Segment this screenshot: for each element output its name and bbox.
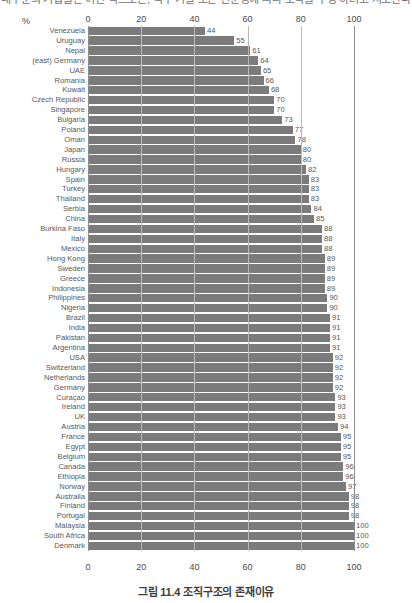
bar-row: Greece89 — [0, 274, 412, 284]
top-tick-label-60: 60 — [243, 14, 253, 24]
bar — [88, 383, 333, 391]
bottom-tick-label-80: 80 — [296, 562, 306, 572]
bar-row: Hong Kong89 — [0, 254, 412, 264]
figure-caption: 그림 11.4 조직구조의 존재이유 — [0, 583, 412, 599]
bar-value-label: 93 — [337, 393, 345, 403]
bar-row: Romania66 — [0, 76, 412, 86]
bar-row: Belgium95 — [0, 452, 412, 462]
bar-row: Argentina91 — [0, 343, 412, 353]
category-label: Curaçao — [0, 393, 85, 403]
bar-value-label: 89 — [327, 264, 335, 274]
bar — [88, 482, 346, 490]
bar-value-label: 96 — [345, 462, 353, 472]
bar-row: Burkina Faso88 — [0, 224, 412, 234]
bar — [88, 96, 274, 104]
bar-value-label: 95 — [343, 442, 351, 452]
cut-off-header-label: 대부분의 기업들은 어떤 식으로든, 직무 기술 또는 전문성에 따라 조직을 … — [0, 0, 412, 5]
bar — [88, 215, 314, 223]
bar-row: Pakistan91 — [0, 333, 412, 343]
category-label: Spain — [0, 175, 85, 185]
category-label: Thailand — [0, 194, 85, 204]
category-label: Hong Kong — [0, 254, 85, 264]
top-tick-label-80: 80 — [296, 14, 306, 24]
category-label: Portugal — [0, 511, 85, 521]
bar-rows: Venezuela44Uruguay55Nepal61(east) German… — [88, 26, 354, 551]
bar-value-label: 83 — [311, 194, 319, 204]
bar — [88, 126, 293, 134]
bar — [88, 314, 330, 322]
bar-value-label: 83 — [311, 184, 319, 194]
bar-row: Japan80 — [0, 145, 412, 155]
bar-row: Spain83 — [0, 175, 412, 185]
category-label: Australia — [0, 492, 85, 502]
bar-row: Singapore70 — [0, 105, 412, 115]
bottom-axis: 020406080100 — [0, 559, 412, 573]
bar — [88, 284, 325, 292]
bar-row: Russia80 — [0, 155, 412, 165]
bar-row: Philippines90 — [0, 293, 412, 303]
category-label: Mexico — [0, 244, 85, 254]
bar — [88, 324, 330, 332]
category-label: South Africa — [0, 531, 85, 541]
category-label: Poland — [0, 125, 85, 135]
bar-row: Kuwait68 — [0, 85, 412, 95]
bar-value-label: 89 — [327, 254, 335, 264]
bar — [88, 413, 335, 421]
bar-value-label: 68 — [271, 85, 279, 95]
bar — [88, 522, 354, 530]
bar-value-label: 66 — [266, 76, 274, 86]
gridline-0 — [88, 26, 89, 551]
category-label: Nigeria — [0, 303, 85, 313]
bar-value-label: 91 — [332, 343, 340, 353]
bar-value-label: 83 — [311, 175, 319, 185]
bar — [88, 116, 282, 124]
bar-row: Canada96 — [0, 462, 412, 472]
top-tick-label-40: 40 — [189, 14, 199, 24]
bar-row: South Africa100 — [0, 531, 412, 541]
bar-value-label: 90 — [329, 303, 337, 313]
category-label: Switzerland — [0, 363, 85, 373]
plot-area: Venezuela44Uruguay55Nepal61(east) German… — [88, 26, 354, 551]
bar-row: Venezuela44 — [0, 26, 412, 36]
bar-value-label: 61 — [252, 46, 260, 56]
category-label: Indonesia — [0, 284, 85, 294]
bar — [88, 46, 250, 54]
bar — [88, 165, 306, 173]
bar-row: Egypt95 — [0, 442, 412, 452]
bar — [88, 66, 261, 74]
bar-value-label: 70 — [276, 95, 284, 105]
category-label: Oman — [0, 135, 85, 145]
category-label: Czech Republic — [0, 95, 85, 105]
bar — [88, 453, 341, 461]
bar-value-label: 95 — [343, 432, 351, 442]
bar-row: Curaçao93 — [0, 393, 412, 403]
bar-value-label: 82 — [308, 165, 316, 175]
bar-value-label: 55 — [236, 36, 244, 46]
category-label: Bulgaria — [0, 115, 85, 125]
bar-value-label: 65 — [263, 66, 271, 76]
category-label: UAE — [0, 66, 85, 76]
bar — [88, 254, 325, 262]
bar — [88, 195, 309, 203]
chart-page: 대부분의 기업들은 어떤 식으로든, 직무 기술 또는 전문성에 따라 조직을 … — [0, 0, 412, 603]
top-axis: 020406080100 — [0, 13, 412, 26]
bar-value-label: 88 — [324, 224, 332, 234]
bar-value-label: 89 — [327, 274, 335, 284]
category-label: India — [0, 323, 85, 333]
bar-value-label: 73 — [284, 115, 292, 125]
bar-value-label: 44 — [207, 26, 215, 36]
category-label: Turkey — [0, 184, 85, 194]
bar-row: Nepal61 — [0, 46, 412, 56]
bar — [88, 373, 333, 381]
category-label: Argentina — [0, 343, 85, 353]
bar-row: Malaysia100 — [0, 521, 412, 531]
bar — [88, 462, 343, 470]
bar — [88, 36, 234, 44]
category-label: China — [0, 214, 85, 224]
bar-row: Finland98 — [0, 501, 412, 511]
bar-value-label: 84 — [313, 204, 321, 214]
bar — [88, 56, 258, 64]
bar — [88, 433, 341, 441]
bottom-tick-label-0: 0 — [85, 562, 90, 572]
category-label: Norway — [0, 482, 85, 492]
